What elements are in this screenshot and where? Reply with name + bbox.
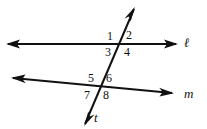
line-label-t: t	[94, 111, 98, 124]
line-label-m: m	[184, 87, 193, 100]
angle-label-7: 7	[84, 89, 90, 101]
angle-label-5: 5	[88, 72, 94, 84]
geometry-canvas	[0, 0, 207, 129]
geometry-figure: 1 2 3 4 5 6 7 8 ℓ m t	[0, 0, 207, 129]
line-label-l: ℓ	[184, 36, 189, 49]
line-t	[84, 7, 135, 126]
angle-label-6: 6	[106, 72, 112, 84]
angle-label-1: 1	[107, 30, 113, 42]
angle-label-8: 8	[103, 89, 109, 101]
line-t-segment	[85, 9, 134, 124]
angle-label-2: 2	[126, 29, 132, 41]
angle-label-3: 3	[105, 46, 111, 58]
angle-label-4: 4	[124, 46, 130, 58]
line-l	[6, 40, 178, 49]
